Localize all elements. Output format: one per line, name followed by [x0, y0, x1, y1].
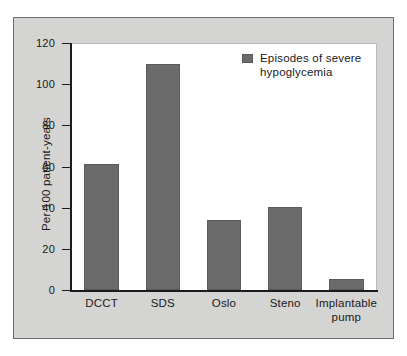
y-axis-tick-label: 100 [36, 78, 55, 90]
bar [146, 64, 180, 290]
y-axis-title: Per 100 patient-years [40, 94, 52, 254]
bar [329, 279, 363, 290]
y-axis-tick-label: 120 [36, 37, 55, 49]
x-axis-tick-label-line1: SDS [151, 297, 175, 309]
legend: Episodes of severe hypoglycemia [242, 51, 361, 79]
y-axis-tick [62, 84, 70, 85]
bar [84, 164, 118, 290]
x-axis-line [70, 290, 378, 292]
x-axis-tick-label-line2: pump [332, 311, 362, 323]
x-axis-tick-label-line1: Steno [270, 297, 301, 309]
chart-figure: Per 100 patient-years 020406080100120 DC… [13, 17, 394, 339]
x-axis-tick-label-line1: DCCT [85, 297, 118, 309]
x-axis-tick-label-line1: Oslo [212, 297, 236, 309]
bar [207, 220, 241, 290]
bar [268, 207, 302, 290]
y-axis-tick [62, 125, 70, 126]
y-axis-tick-label: 0 [49, 284, 55, 296]
x-axis-tick-label-line1: Implantable [316, 297, 378, 309]
x-axis-tick-label: Implantablepump [310, 296, 383, 324]
legend-swatch-icon [242, 54, 253, 63]
y-axis-tick-label: 40 [42, 202, 55, 214]
y-axis-tick-label: 80 [42, 119, 55, 131]
legend-label: Episodes of severe hypoglycemia [260, 51, 361, 79]
legend-label-line2: hypoglycemia [260, 66, 333, 78]
legend-label-line1: Episodes of severe [260, 52, 361, 64]
y-axis-line [70, 43, 72, 292]
y-axis-tick-label: 20 [42, 243, 55, 255]
y-axis-tick [62, 167, 70, 168]
y-axis-tick [62, 249, 70, 250]
y-axis-tick [62, 290, 70, 291]
y-axis-tick [62, 208, 70, 209]
y-axis-tick [62, 43, 70, 44]
y-axis-tick-label: 60 [42, 161, 55, 173]
